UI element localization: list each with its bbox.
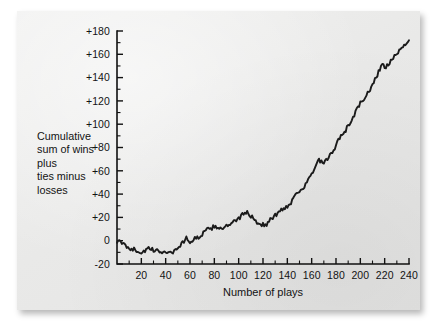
y-tick-label: +160 bbox=[86, 48, 110, 60]
axis-lines bbox=[117, 31, 409, 264]
y-tick-label: -20 bbox=[95, 258, 111, 270]
y-tick-label: 0 bbox=[104, 234, 110, 246]
axes bbox=[117, 31, 409, 264]
tick-labels: -200+20+40+60+80+100+120+140+160+1802040… bbox=[86, 25, 418, 281]
x-tick-label: 200 bbox=[351, 269, 369, 281]
y-tick-label: +180 bbox=[86, 25, 110, 37]
x-tick-label: 80 bbox=[208, 269, 220, 281]
figure-root: Cumulative sum of wins plus ties minus l… bbox=[0, 0, 439, 330]
y-tick-label: +100 bbox=[86, 118, 110, 130]
x-tick-label: 180 bbox=[327, 269, 345, 281]
x-tick-label: 40 bbox=[160, 269, 172, 281]
y-tick-label: +60 bbox=[92, 165, 110, 177]
x-tick-label: 120 bbox=[254, 269, 272, 281]
x-tick-label: 20 bbox=[135, 269, 147, 281]
x-tick-label: 140 bbox=[278, 269, 296, 281]
y-tick-label: +40 bbox=[92, 188, 110, 200]
plot-area: -200+20+40+60+80+100+120+140+160+1802040… bbox=[17, 11, 420, 310]
series-line bbox=[117, 40, 409, 253]
data-series bbox=[117, 40, 409, 253]
y-tick-label: +120 bbox=[86, 95, 110, 107]
x-tick-label: 220 bbox=[376, 269, 394, 281]
chart-panel: Cumulative sum of wins plus ties minus l… bbox=[17, 11, 420, 310]
y-tick-label: +140 bbox=[86, 71, 110, 83]
tick-marks bbox=[117, 31, 409, 264]
x-tick-label: 240 bbox=[400, 269, 418, 281]
x-tick-label: 60 bbox=[184, 269, 196, 281]
x-tick-label: 160 bbox=[303, 269, 321, 281]
y-tick-label: +20 bbox=[92, 211, 110, 223]
y-tick-label: +80 bbox=[92, 141, 110, 153]
x-tick-label: 100 bbox=[230, 269, 248, 281]
x-axis-title: Number of plays bbox=[223, 286, 304, 298]
